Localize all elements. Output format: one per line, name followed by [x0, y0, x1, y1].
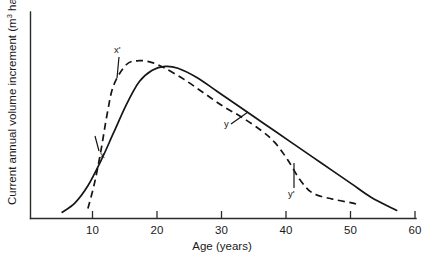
x-tick-label-0: 10 [86, 224, 99, 236]
leader-x-prime [117, 57, 119, 78]
x-tick-label-3: 40 [280, 224, 293, 236]
point-label-y: y [224, 118, 229, 129]
curve-unthinned [62, 66, 397, 212]
curve-thinned [88, 61, 358, 209]
point-label-y-prime: y' [288, 188, 295, 199]
point-label-x-prime: x' [114, 44, 121, 55]
leader-y [231, 112, 248, 124]
y-axis-title-base2: ha [6, 0, 18, 14]
x-tick-label-1: 20 [151, 224, 164, 236]
figure-container: 10 20 30 40 50 60 Age (years) Current an… [0, 0, 431, 257]
x-axis-title: Age (years) [192, 240, 252, 252]
x-axis-tick-labels: 10 20 30 40 50 60 [86, 224, 421, 236]
y-axis-title: Current annual volume increment (m3 ha−1… [5, 0, 18, 205]
x-axis-ticks [93, 211, 416, 219]
x-tick-label-4: 50 [344, 224, 357, 236]
leader-x [95, 136, 99, 151]
x-tick-label-5: 60 [409, 224, 422, 236]
x-tick-label-2: 30 [215, 224, 228, 236]
chart-canvas: 10 20 30 40 50 60 Age (years) Current an… [0, 0, 431, 257]
point-label-x: x [100, 149, 105, 160]
y-axis-title-base1: Current annual volume increment (m [6, 18, 18, 205]
